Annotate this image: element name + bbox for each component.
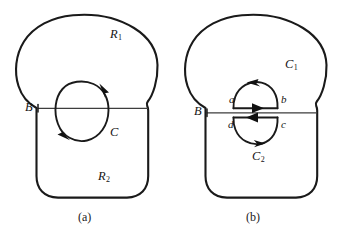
- figure-container: R1 R2 B C (a) C1 C2 B a b c d (b): [0, 0, 345, 239]
- panel-b-label-corner-b: b: [281, 94, 287, 105]
- panel-a-region-outline: [16, 15, 158, 198]
- panel-b-graphics: [185, 15, 327, 198]
- panel-a-label-region-lower: R2: [98, 170, 110, 184]
- panel-b-caption: (b): [246, 211, 260, 223]
- panel-b-curve-c2-base-arrow: [246, 113, 258, 123]
- panel-a-curve-c-arrow-upper: [99, 84, 109, 98]
- panel-b-label-corner-c: c: [281, 119, 286, 130]
- panel-b-curve-c1-arc: [233, 82, 277, 108]
- panel-a-curve-c: [55, 81, 108, 141]
- panel-a-label-curve-c: C: [110, 126, 118, 139]
- panel-b-label-curve-c1: C1: [285, 58, 298, 72]
- panel-a-caption: (a): [78, 211, 91, 223]
- figure-svg: [0, 0, 345, 239]
- panel-b-label-curve-c2: C2: [252, 150, 265, 164]
- panel-b-label-corner-a: a: [229, 94, 235, 105]
- panel-a-label-region-upper: R1: [110, 28, 122, 42]
- panel-b-label-corner-d: d: [228, 119, 234, 130]
- panel-a-graphics: [16, 15, 158, 198]
- panel-a-label-boundary: B: [25, 101, 33, 114]
- panel-b-curve-c2-arc: [233, 118, 277, 145]
- panel-b-curve-c1-base-arrow: [252, 103, 264, 113]
- panel-b-label-boundary: B: [194, 105, 202, 118]
- panel-a-curve-c-arrow-lower: [58, 129, 71, 141]
